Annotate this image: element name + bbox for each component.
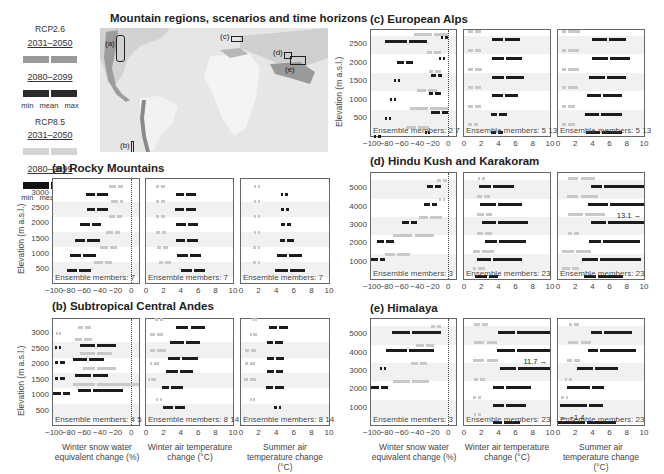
x-tick-label: 8 <box>208 286 224 295</box>
bar-far-term <box>493 185 514 188</box>
zero-line <box>131 319 132 425</box>
bar-far-term <box>609 38 626 41</box>
bar-near-term <box>434 51 441 54</box>
ensemble-members-label: Ensemble members: 5 13 <box>560 126 651 135</box>
x-tick-label: −60 <box>76 428 92 437</box>
x-tick-label: 0 <box>440 282 456 291</box>
bar-far-term <box>73 358 88 361</box>
x-tick-label: 2 <box>473 282 489 291</box>
bar-near-term <box>414 33 432 36</box>
bar-far-term <box>176 239 185 242</box>
bar-far-term <box>498 331 514 334</box>
legend-rcp26-near: 2031–2050 <box>4 38 96 48</box>
bar-near-term <box>83 367 95 370</box>
bar-near-term <box>161 215 165 218</box>
bar-near-term <box>430 107 448 110</box>
y-tick-label: 2000 <box>28 359 49 368</box>
x-tick-label: −40 <box>409 428 425 437</box>
bar-far-term <box>610 57 631 60</box>
bar-near-term <box>574 232 579 235</box>
world-map-shapes <box>100 28 328 152</box>
x-tick-label: 6 <box>602 428 618 437</box>
bar-near-term <box>482 250 494 253</box>
bar-near-term <box>250 362 255 365</box>
x-tick-label: 4 <box>268 428 284 437</box>
bar-far-term <box>506 57 522 60</box>
bar-near-term <box>568 213 582 216</box>
bar-near-term <box>474 323 480 326</box>
bar-far-term <box>604 185 644 188</box>
bar-far-term <box>431 74 435 77</box>
bar-far-term <box>276 370 283 373</box>
bar-near-term <box>581 195 599 198</box>
bar-near-term <box>473 359 485 362</box>
map-region-e-outline <box>290 56 306 65</box>
bar-far-term <box>381 386 388 389</box>
zero-line <box>448 30 449 136</box>
x-tick-label: 6 <box>602 282 618 291</box>
bar-far-term <box>79 269 91 272</box>
x-tick-label: −80 <box>378 282 394 291</box>
x-tick-label: 10 <box>636 428 652 437</box>
bar-far-term <box>55 361 59 364</box>
bar-near-term <box>254 215 256 218</box>
bar-far-term <box>385 40 407 43</box>
bar-near-term <box>78 326 83 329</box>
bar-far-term <box>394 79 396 82</box>
bar-far-term <box>477 258 491 261</box>
bar-far-term <box>589 404 603 407</box>
x-tick-label: 6 <box>508 282 524 291</box>
bar-far-term <box>480 203 495 206</box>
x-tick-label: 6 <box>286 428 302 437</box>
x-tick-label: 4 <box>584 282 600 291</box>
x-tick-label: 8 <box>619 428 635 437</box>
bar-far-term <box>397 61 404 64</box>
bar-far-term <box>499 113 507 116</box>
x-tick-label: −100 <box>363 139 379 148</box>
bar-far-term <box>402 221 409 224</box>
y-tick-label: 500 <box>28 264 49 273</box>
bar-near-term <box>565 378 567 381</box>
bar-near-term <box>468 86 473 89</box>
bar-near-term <box>568 30 581 33</box>
bar-far-term <box>384 367 386 370</box>
bar-far-term <box>190 254 201 257</box>
bar-far-term <box>409 349 434 352</box>
bar-near-term <box>253 398 255 401</box>
bar-far-term <box>287 223 291 226</box>
y-tick-label: 3000 <box>28 188 49 197</box>
bar-near-term <box>155 318 158 321</box>
bar-far-term <box>505 94 519 97</box>
bar-far-term <box>585 113 599 116</box>
x-tick-label: 2 <box>155 428 171 437</box>
y-tick-label: 2000 <box>28 218 49 227</box>
x-tick-label: 4 <box>584 139 600 148</box>
bar-far-term <box>177 254 187 257</box>
bar-near-term <box>258 185 260 188</box>
bar-far-term <box>60 361 64 364</box>
x-tick-label: −100 <box>363 282 379 291</box>
bar-near-term <box>258 246 261 249</box>
bar-near-term <box>477 213 484 216</box>
bar-near-term <box>161 200 165 203</box>
bar-near-term <box>148 378 150 381</box>
x-tick-label: 0 <box>123 428 139 437</box>
background-band <box>146 373 233 388</box>
bar-far-term <box>55 377 59 380</box>
bar-far-term <box>398 79 400 82</box>
bar-far-term <box>607 76 626 79</box>
x-tick-label: 2 <box>251 286 267 295</box>
bar-annotation: 13.1 → <box>617 211 641 220</box>
bar-near-term <box>118 185 123 188</box>
bar-far-term <box>492 57 505 60</box>
bar-far-term <box>70 254 81 257</box>
bar-far-term <box>275 341 283 344</box>
bar-far-term <box>441 36 444 39</box>
x-tick-label: −80 <box>61 428 77 437</box>
bar-far-term <box>87 239 100 242</box>
bar-near-term <box>486 213 492 216</box>
x-tick-label: −60 <box>394 428 410 437</box>
xlabel-winter-temp-right: Winter air temperature change (°C) <box>463 442 551 462</box>
ensemble-members-label: Ensemble members: 7 <box>148 273 228 282</box>
bar-far-term <box>595 367 618 370</box>
